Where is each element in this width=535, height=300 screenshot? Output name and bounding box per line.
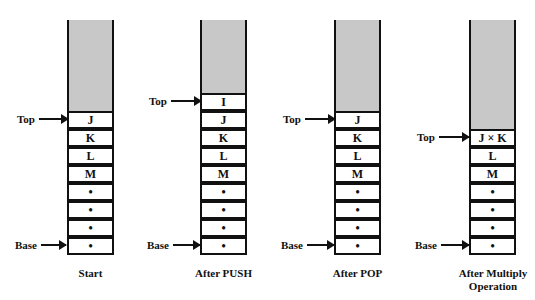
stack-cell: K: [200, 129, 247, 147]
stack-cell: J × K: [469, 129, 516, 147]
base-label: Base: [15, 239, 37, 251]
stack-cell: J: [334, 111, 381, 129]
top-pointer: Top: [17, 113, 68, 125]
stack-cell: •: [334, 237, 381, 255]
empty-stack-region: [334, 20, 381, 111]
arrow-right-icon: [439, 136, 469, 138]
stack-cell: •: [67, 201, 114, 219]
stack-cell: •: [67, 237, 114, 255]
stack-caption: After POP: [320, 267, 395, 280]
stack-caption: After PUSH: [183, 267, 264, 280]
top-label: Top: [149, 95, 167, 107]
stack-cell: M: [334, 165, 381, 183]
stack-cell: •: [200, 219, 247, 237]
arrow-right-icon: [39, 118, 68, 120]
top-pointer: Top: [417, 131, 469, 143]
stack-cell: •: [200, 237, 247, 255]
base-pointer: Base: [147, 239, 200, 251]
stack-cell: M: [469, 165, 516, 183]
base-label: Base: [415, 239, 437, 251]
stack-cell: •: [200, 201, 247, 219]
stack-cell: L: [67, 147, 114, 165]
top-label: Top: [17, 113, 35, 125]
arrow-right-icon: [307, 244, 334, 246]
base-pointer: Base: [415, 239, 469, 251]
stack-cell: K: [334, 129, 381, 147]
top-label: Top: [417, 131, 435, 143]
top-label: Top: [283, 113, 301, 125]
stack-cell: J: [67, 111, 114, 129]
arrow-right-icon: [173, 244, 200, 246]
stack-cell: •: [334, 219, 381, 237]
stack-cell: •: [67, 183, 114, 201]
arrow-right-icon: [41, 244, 66, 246]
stack-cell: •: [469, 183, 516, 201]
stack-cell: M: [67, 165, 114, 183]
arrow-right-icon: [305, 118, 335, 120]
stack-cell: I: [200, 93, 247, 111]
stack-cell: •: [334, 183, 381, 201]
stack-cell: •: [469, 237, 516, 255]
stack-cell: •: [200, 183, 247, 201]
top-pointer: Top: [283, 113, 335, 125]
base-pointer: Base: [15, 239, 66, 251]
stack-cell: M: [200, 165, 247, 183]
empty-stack-region: [469, 20, 516, 129]
stack-cell: •: [469, 219, 516, 237]
base-label: Base: [281, 239, 303, 251]
empty-stack-region: [200, 20, 247, 93]
arrow-right-icon: [171, 100, 201, 102]
stack-cell: J: [200, 111, 247, 129]
stack-cell: L: [334, 147, 381, 165]
stack-cell: •: [469, 201, 516, 219]
arrow-right-icon: [441, 244, 469, 246]
stack-cell: •: [334, 201, 381, 219]
stack-cell: L: [200, 147, 247, 165]
stack-cell: K: [67, 129, 114, 147]
base-label: Base: [147, 239, 169, 251]
base-pointer: Base: [281, 239, 334, 251]
stack-caption: After Multiply Operation: [450, 267, 535, 293]
stack-cell: •: [67, 219, 114, 237]
stack-caption: Start: [55, 267, 126, 280]
empty-stack-region: [67, 20, 114, 111]
stack-cell: L: [469, 147, 516, 165]
top-pointer: Top: [149, 95, 201, 107]
